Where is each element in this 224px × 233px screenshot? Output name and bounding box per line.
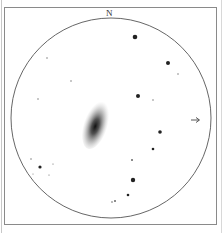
field-of-view-circle [11,18,211,218]
star [177,73,178,74]
direction-arrow-icon [191,118,200,123]
star [38,165,41,168]
star [166,61,170,65]
star [30,158,31,159]
star [131,159,133,161]
star [136,94,140,98]
star [70,80,71,81]
star [46,57,47,58]
star [152,148,155,151]
star [48,174,49,175]
star [152,99,153,100]
star [158,130,162,134]
star [111,201,113,203]
star [114,200,116,202]
star [133,35,138,40]
sky-field [0,0,224,233]
star [37,98,38,99]
galaxy [77,96,116,153]
star [127,194,130,197]
star [52,163,53,164]
star [131,178,135,182]
star [33,174,34,175]
